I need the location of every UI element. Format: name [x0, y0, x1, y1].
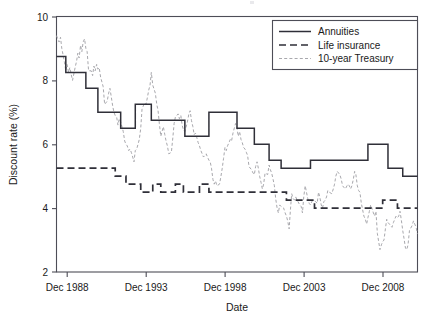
x-axis-ticks [67, 272, 383, 277]
x-tick-label-dec-2003: Dec 2003 [283, 282, 326, 293]
x-tick-label-dec-1993: Dec 1993 [125, 282, 168, 293]
x-axis-title: Date [226, 301, 248, 313]
chart-canvas: 10 8 6 4 2 Dec 1988 Dec 1993 Dec 1998 De… [0, 0, 434, 332]
legend-label-10-year-treasury: 10-year Treasury [318, 53, 394, 64]
legend-label-life-insurance: Life insurance [318, 40, 381, 51]
legend-label-annuities: Annuities [318, 26, 359, 37]
x-tick-label-dec-1988: Dec 1988 [46, 282, 89, 293]
y-tick-label-4: 4 [42, 203, 48, 214]
series-line-annuities [57, 56, 418, 176]
y-tick-label-2: 2 [42, 267, 48, 278]
y-tick-label-10: 10 [37, 12, 49, 23]
x-tick-labels: Dec 1988 Dec 1993 Dec 1998 Dec 2003 Dec … [46, 282, 405, 293]
y-tick-label-8: 8 [42, 75, 48, 86]
y-tick-labels: 10 8 6 4 2 [37, 12, 49, 278]
y-axis-ticks [52, 17, 57, 272]
y-tick-label-6: 6 [42, 139, 48, 150]
legend: Annuities Life insurance 10-year Treasur… [273, 21, 418, 70]
x-tick-label-dec-1998: Dec 1998 [204, 282, 247, 293]
series-line-life-insurance [57, 168, 418, 208]
x-tick-label-dec-2008: Dec 2008 [362, 282, 405, 293]
y-axis-title: Discount rate (%) [7, 104, 19, 185]
chart-figure: 10 8 6 4 2 Dec 1988 Dec 1993 Dec 1998 De… [0, 0, 434, 332]
scan-artifact [250, 1, 254, 4]
